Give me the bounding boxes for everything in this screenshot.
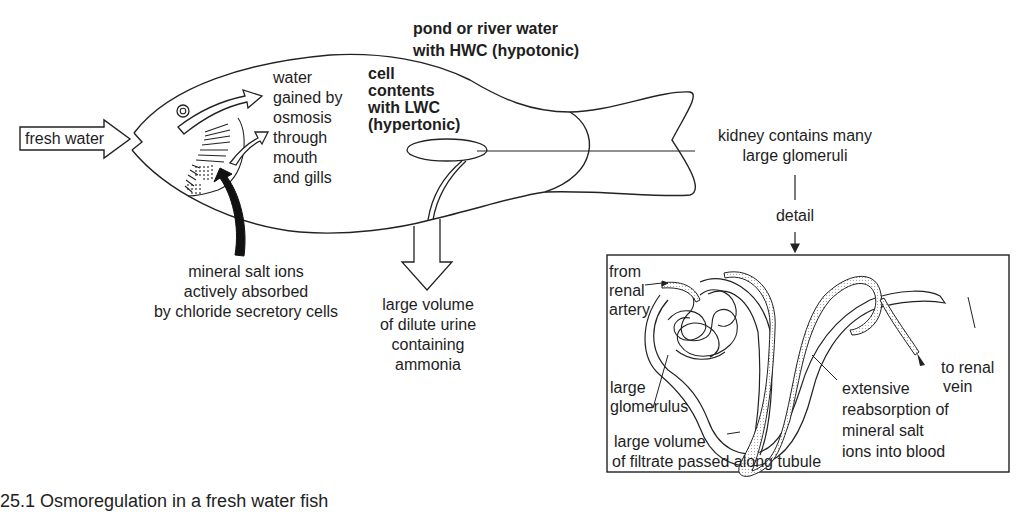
reabsorption-line: ions into blood xyxy=(842,441,949,462)
urine-line: large volume xyxy=(368,295,488,315)
vein-line: to renal xyxy=(941,358,994,377)
environment-label: pond or river water with HWC (hypotonic) xyxy=(413,18,579,62)
from-artery-line: renal xyxy=(609,281,650,300)
water-gain-line: mouth xyxy=(273,148,342,168)
glomerulus-label: large glomerulus xyxy=(610,378,688,416)
reabsorption-line: mineral salt xyxy=(842,420,949,441)
detail-label: detail xyxy=(765,206,825,226)
cell-contents-line: cell xyxy=(368,65,460,82)
reabsorption-line: extensive xyxy=(842,378,949,399)
cell-contents-line: (hypertonic) xyxy=(368,116,460,133)
urine-line: of dilute urine xyxy=(368,315,488,335)
salt-uptake-label: mineral salt ions actively absorbed by c… xyxy=(131,262,361,322)
salt-uptake-line: mineral salt ions xyxy=(131,262,361,282)
water-gain-line: water xyxy=(273,68,342,88)
from-artery-line: from xyxy=(609,262,650,281)
urine-output-arrow-icon xyxy=(402,219,452,290)
figure-caption: 25.1 Osmoregulation in a fresh water fis… xyxy=(0,490,328,512)
urine-line: ammonia xyxy=(368,355,488,375)
fish-eye-icon xyxy=(177,105,189,117)
fresh-water-label: fresh water xyxy=(25,129,104,149)
urine-line: containing xyxy=(368,335,488,355)
cell-contents-label: cell contents with LWC (hypertonic) xyxy=(368,65,460,133)
water-gain-label: water gained by osmosis through mouth an… xyxy=(273,68,342,188)
glomerulus-line: large xyxy=(610,378,688,397)
salt-uptake-arrow-icon xyxy=(214,168,245,256)
filtrate-line: large volume xyxy=(612,432,821,452)
salt-uptake-line: actively absorbed xyxy=(131,282,361,302)
urine-label: large volume of dilute urine containing … xyxy=(368,295,488,375)
salt-uptake-line: by chloride secretory cells xyxy=(131,302,361,322)
kidney-label: kidney contains many large glomeruli xyxy=(695,126,895,166)
reabsorption-label: extensive reabsorption of mineral salt i… xyxy=(842,378,949,462)
vein-line: vein xyxy=(941,377,994,396)
kidney-line: large glomeruli xyxy=(695,146,895,166)
glomerulus-line: glomerulus xyxy=(610,397,688,416)
from-artery-label: from renal artery xyxy=(609,262,650,319)
filtrate-line: of filtrate passed along tubule xyxy=(612,452,821,472)
environment-line: with HWC (hypotonic) xyxy=(413,40,579,62)
cell-contents-line: with LWC xyxy=(368,99,460,116)
water-gain-line: and gills xyxy=(273,168,342,188)
water-gain-line: through xyxy=(273,128,342,148)
filtrate-label: large volume of filtrate passed along tu… xyxy=(612,432,821,472)
kidney-line: kidney contains many xyxy=(695,126,895,146)
water-gain-line: gained by xyxy=(273,88,342,108)
water-gain-arrow-icon xyxy=(178,90,268,165)
water-gain-line: osmosis xyxy=(273,108,342,128)
cell-contents-line: contents xyxy=(368,82,460,99)
glomerulus-icon xyxy=(663,284,737,359)
reabsorption-line: reabsorption of xyxy=(842,399,949,420)
from-artery-line: artery xyxy=(609,300,650,319)
environment-line: pond or river water xyxy=(413,18,579,40)
vein-label: to renal vein xyxy=(941,358,994,396)
